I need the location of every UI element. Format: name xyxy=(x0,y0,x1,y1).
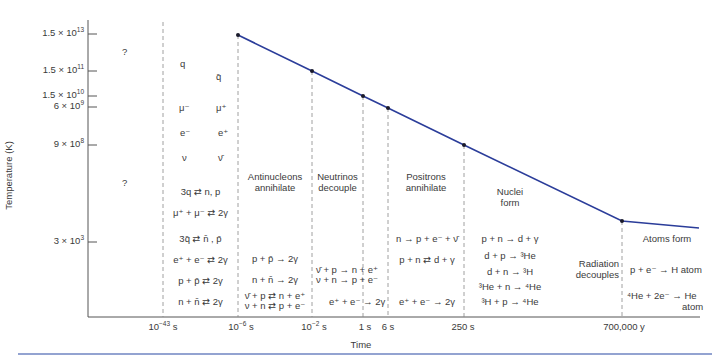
reaction: d + p → ³He xyxy=(466,251,554,262)
reaction: e⁺ + e⁻ ⇄ 2γ xyxy=(163,255,238,266)
reaction: atom xyxy=(682,302,703,313)
x-tick-label: 250 s xyxy=(451,321,474,332)
reaction: ³H + p → ⁴He xyxy=(466,297,554,308)
x-tick-label: 10−2 s xyxy=(301,321,326,332)
reaction: e⁺ + e⁻ → 2γ xyxy=(329,297,385,308)
x-axis-label: Time xyxy=(351,339,372,350)
particle-q: q xyxy=(180,59,185,70)
unknown-mark: ? xyxy=(122,47,127,58)
particle-electron: e⁻ xyxy=(180,128,190,139)
reaction: ν + n ⇄ p + e⁻ xyxy=(238,301,312,312)
particle-qbar: q̄ xyxy=(216,72,221,83)
reaction: p + e⁻ → H atom xyxy=(630,265,702,276)
epoch-title-neutrinos: Neutrinosdecouple xyxy=(312,172,363,194)
y-tick-label: 1.5 × 1013 xyxy=(4,27,84,38)
x-tick-label: 700,000 y xyxy=(603,321,645,332)
particle-antineutrino: ν̄ xyxy=(218,153,223,164)
y-tick-label: 1.5 × 1011 xyxy=(4,64,84,75)
reaction: n + n̄ → 2γ xyxy=(238,275,312,286)
y-tick-label: 3 × 103 xyxy=(4,235,84,246)
reaction: n → p + e⁻ + ν̄ xyxy=(390,234,464,245)
reaction: e⁺ + e⁻ → 2γ xyxy=(390,297,464,308)
y-ticks xyxy=(88,34,97,242)
x-tick-label: 10−6 s xyxy=(228,321,253,332)
reaction: p + p̄ → 2γ xyxy=(238,254,312,265)
x-tick-label: 6 s xyxy=(382,321,395,332)
reaction: 3q̄ ⇄ n̄ , p̄ xyxy=(163,234,238,245)
reaction: p + n ⇄ d + γ xyxy=(390,255,464,266)
reaction: p + n → d + γ xyxy=(466,234,554,245)
particle-neutrino: ν xyxy=(182,153,187,164)
epoch-title-positrons: Positronsannihilate xyxy=(388,172,464,194)
reaction: ³He + n → ⁴He xyxy=(466,282,554,293)
epoch-title-antinucleons: Antinucleonsannihilate xyxy=(238,172,312,194)
reaction: μ⁺ + μ⁻ ⇄ 2γ xyxy=(163,208,238,219)
reaction: 3q ⇄ n, p xyxy=(163,187,238,198)
y-tick-label: 9 × 108 xyxy=(4,138,84,149)
x-tick-label: 10−43 s xyxy=(149,321,178,332)
y-axis-label: Temperature (K) xyxy=(3,141,14,210)
epoch-title-atoms: Atoms form xyxy=(625,234,709,245)
temperature-curve xyxy=(238,35,699,228)
unknown-mark: ? xyxy=(122,178,127,189)
reaction: d + n → ³H xyxy=(466,267,554,278)
x-tick-label: 1 s xyxy=(359,321,372,332)
particle-positron: e⁺ xyxy=(218,128,228,139)
y-tick-label: 6 × 109 xyxy=(4,100,84,111)
reaction: n + n̄ ⇄ 2γ xyxy=(163,297,238,308)
epoch-title-radiation: Radiationdecouples xyxy=(560,259,619,281)
particle-muon-minus: μ⁻ xyxy=(179,103,190,114)
y-tick-label: 1.5 × 1010 xyxy=(4,89,84,100)
reaction: ν + n → p + e⁻ xyxy=(316,275,378,286)
epoch-title-nuclei: Nucleiform xyxy=(485,187,535,209)
particle-muon-plus: μ⁺ xyxy=(216,103,227,114)
reaction: p + p̄ ⇄ 2γ xyxy=(163,276,238,287)
